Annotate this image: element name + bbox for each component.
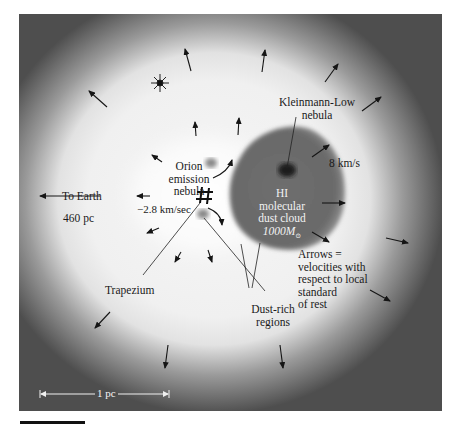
cloud-label-line1: HI [251,187,313,200]
kleinmann-low-label: Kleinmann-Low nebula [263,96,371,121]
dust-label-line1: Dust-rich [243,303,303,316]
to-earth-label: To Earth [62,190,102,203]
legend-line4: standard [298,286,368,299]
star-symbol [151,74,169,92]
solar-mass-symbol: ⊙ [295,232,301,240]
orion-nebula-diagram: Orion emission nebula −2.8 km/sec To Ear… [19,14,442,411]
cloud-label-line3: dust cloud [251,212,313,225]
dust-label-line2: regions [243,316,303,329]
dust-rich-label: Dust-rich regions [243,303,303,328]
orion-label-line2: emission [159,173,219,186]
kl-label-line2: nebula [263,109,371,122]
kleinmann-low-core [278,163,296,177]
legend-line2: velocities with [298,261,368,274]
kl-label-line1: Kleinmann-Low [263,96,371,109]
legend-line3: respect to local [298,273,368,286]
cloud-label: HI molecular dust cloud 1000M⊙ [251,187,313,242]
legend-line5: of rest [298,298,368,311]
cloud-mass-value: 1000M [263,225,296,237]
orion-label-line1: Orion [159,160,219,173]
trapezium-label: Trapezium [105,284,154,297]
dust-blob-lower [197,209,209,219]
caption-rule [20,421,85,424]
orion-label-line3: nebula [159,185,219,198]
scale-label: 1 pc [97,387,116,399]
speed-label: 8 km/s [329,157,360,170]
cloud-label-line2: molecular [251,200,313,213]
orion-velocity-label: −2.8 km/sec [137,203,191,216]
cloud-mass: 1000M⊙ [251,225,313,243]
distance-label: 460 pc [63,212,94,225]
legend-line1: Arrows = [298,248,368,261]
arrows-legend: Arrows = velocities with respect to loca… [298,248,368,311]
orion-label: Orion emission nebula [159,160,219,198]
